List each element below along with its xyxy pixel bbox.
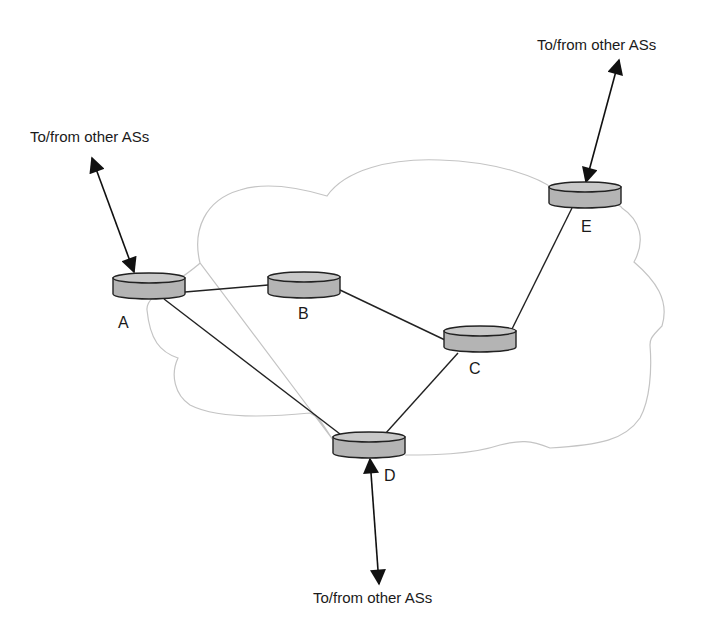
link-a-b: [185, 285, 268, 292]
link-a-d: [164, 299, 340, 434]
external-label-e: To/from other ASs: [537, 36, 656, 53]
router-e: [549, 182, 621, 208]
as-network-diagram: A B C D E To/from other ASs To/from othe…: [0, 0, 720, 643]
link-c-d: [385, 353, 458, 434]
router-a: [113, 273, 185, 299]
external-link-d: [370, 459, 379, 584]
external-link-e: [586, 60, 619, 182]
external-link-a: [92, 158, 134, 272]
router-b-label: B: [298, 305, 309, 322]
router-c: [444, 326, 516, 352]
router-e-label: E: [581, 218, 592, 235]
router-a-label: A: [118, 314, 129, 331]
router-d-label: D: [384, 467, 396, 484]
router-d: [333, 432, 405, 458]
link-b-c: [340, 290, 445, 340]
router-c-label: C: [469, 360, 481, 377]
router-b: [268, 272, 340, 298]
external-label-a: To/from other ASs: [30, 128, 149, 145]
link-c-e: [512, 208, 572, 329]
external-label-d: To/from other ASs: [313, 589, 432, 606]
